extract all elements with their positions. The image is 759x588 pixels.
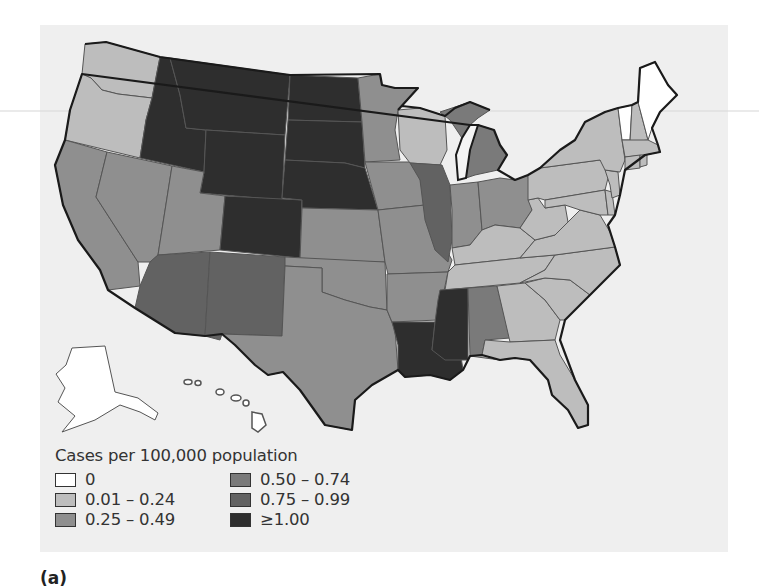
state-az [135,252,210,336]
state-nd [288,75,362,122]
state-ny [540,108,625,172]
state-co [220,196,302,258]
legend-swatch [230,473,251,487]
state-mt [170,58,290,135]
legend-swatch [230,493,251,507]
legend-label: 0.01 – 0.24 [85,491,175,509]
state-ks [300,208,385,262]
legend-label: 0 [85,471,95,489]
legend-label: 0.75 – 0.99 [260,491,350,509]
legend-item-low: 0.01 – 0.24 [55,490,175,510]
legend-label: 0.50 – 0.74 [260,471,350,489]
legend-swatch [55,473,76,487]
legend-item-high: 0.75 – 0.99 [230,490,350,510]
legend-swatch [55,493,76,507]
legend-item-medium-low: 0.25 – 0.49 [55,510,175,530]
legend-label: ≥1.00 [260,511,310,529]
state-hi [184,380,266,433]
legend-item-medium: 0.50 – 0.74 [230,470,350,490]
legend-item-highest: ≥1.00 [230,510,350,530]
figure-caption: (a) [40,568,67,588]
state-nm [205,252,285,340]
state-ma [622,140,660,157]
map-legend: Cases per 100,000 population 0 0.01 – 0.… [55,446,298,465]
legend-swatch [55,513,76,527]
state-wy [200,130,285,200]
legend-title: Cases per 100,000 population [55,446,298,465]
legend-item-zero: 0 [55,470,175,490]
legend-label: 0.25 – 0.49 [85,511,175,529]
legend-swatch [230,513,251,527]
state-ak [56,346,158,432]
